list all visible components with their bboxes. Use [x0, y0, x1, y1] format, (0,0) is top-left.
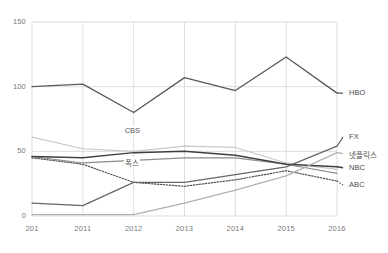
x-axis-tick-2013: 2013 [165, 224, 205, 233]
x-axis-tick-2014: 2014 [215, 224, 255, 233]
inline-series-label-CBS: CBS [124, 126, 141, 135]
series-end-label-HBO: HBO [349, 88, 366, 97]
series-end-label-NBC: NBC [349, 163, 365, 172]
x-axis-tick-2016: 2016 [317, 224, 357, 233]
chart-canvas [0, 0, 388, 253]
x-axis-tick-2012: 2012 [114, 224, 154, 233]
x-axis-tick-2015: 2015 [266, 224, 306, 233]
y-axis-tick-50: 50 [2, 146, 26, 155]
y-axis-tick-150: 150 [2, 17, 26, 26]
y-axis-tick-100: 100 [2, 82, 26, 91]
x-axis-tick-201: 201 [12, 224, 52, 233]
line-chart: 050100150201201120122013201420152016CBS폭… [0, 0, 388, 253]
y-axis-tick-0: 0 [2, 211, 26, 220]
series-end-label-넷플릭스: 넷플릭스 [349, 149, 377, 160]
leader-line-NBC [337, 167, 343, 168]
x-axis-tick-2011: 2011 [63, 224, 103, 233]
leader-line-FX [337, 137, 343, 146]
series-end-label-FX: FX [349, 132, 359, 141]
inline-series-label-폭스: 폭스 [124, 157, 140, 168]
leader-line-ABC [337, 181, 343, 185]
series-end-label-ABC: ABC [349, 180, 365, 189]
leader-line-넷플릭스 [337, 153, 343, 154]
